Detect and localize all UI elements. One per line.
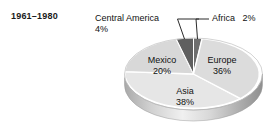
chart-container: 1961–1980 (0, 0, 270, 139)
slice-label-europe-name: Europe (199, 55, 245, 66)
slice-label-mexico: Mexico 20% (139, 55, 185, 77)
leader-line-africa-drop (196, 19, 198, 39)
leader-line-central-america-drop (178, 19, 185, 39)
slice-label-mexico-name: Mexico (139, 55, 185, 66)
slice-label-asia-name: Asia (165, 86, 205, 97)
slice-label-asia-value: 38% (165, 97, 205, 108)
slice-label-mexico-value: 20% (139, 66, 185, 77)
callout-africa-value: 2% (243, 13, 256, 23)
callout-africa: Africa 2% (212, 13, 256, 24)
slice-label-asia: Asia 38% (165, 86, 205, 108)
callout-africa-label: Africa (212, 13, 235, 23)
callout-central-america-value: 4% (95, 24, 159, 35)
callout-central-america-label: Central America (95, 13, 159, 24)
slice-label-europe: Europe 36% (199, 55, 245, 77)
callout-central-america: Central America 4% (95, 13, 159, 35)
slice-label-europe-value: 36% (199, 66, 245, 77)
